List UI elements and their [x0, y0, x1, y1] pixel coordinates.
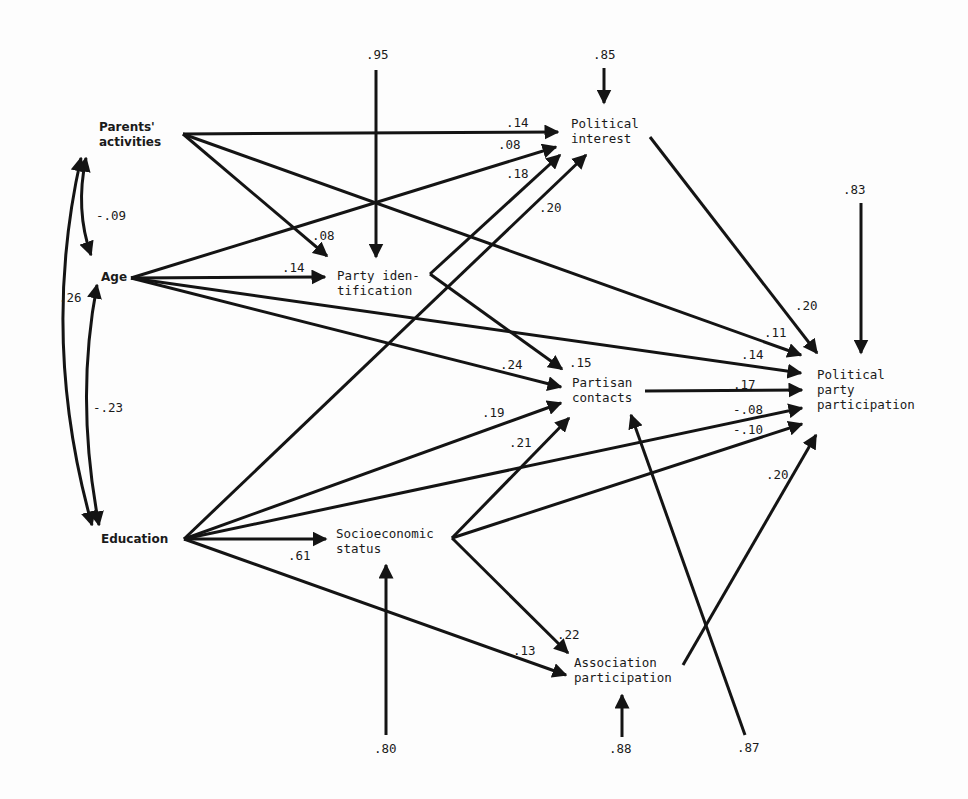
resid-party-identification: .95 [366, 47, 389, 62]
node-party-identification: Party iden-tification [337, 268, 420, 298]
coef-partyid-interest: .20 [539, 200, 562, 215]
coef-age-education: -.23 [93, 400, 123, 415]
resid-association-participation: .88 [609, 741, 632, 756]
label-line: Political [571, 116, 639, 131]
coef-education-ses: .61 [288, 548, 311, 563]
resid-political-interest: .85 [593, 47, 616, 62]
node-parents-activities: Parents'activities [99, 120, 161, 150]
path-education-association [184, 539, 566, 675]
coef-ses-contacts: .21 [509, 435, 532, 450]
coef-association-ppp: .20 [766, 467, 789, 482]
label-line: participation [574, 670, 672, 685]
coef-ses-ppp: -.10 [733, 422, 763, 437]
coef-parents-ppp: .11 [764, 325, 787, 340]
coef-age-interest: .08 [498, 137, 521, 152]
node-socioeconomic-status: Socioeconomicstatus [336, 526, 434, 556]
coef-partyid-contacts: .15 [569, 355, 592, 370]
label-line: status [336, 541, 381, 556]
coef-age-partyid: .14 [282, 260, 305, 275]
path-contacts-ppp [645, 390, 802, 391]
path-ses-ppp [452, 424, 802, 538]
coef-contacts-ppp: .17 [733, 377, 756, 392]
label-line: interest [571, 131, 631, 146]
corr-parents-age [82, 158, 91, 255]
coef-education-ppp: -.08 [733, 402, 763, 417]
node-education: Education [101, 532, 168, 547]
coef-parents-partyid: .08 [312, 228, 335, 243]
path-education-interest [184, 155, 586, 539]
label-line: Parents' [99, 120, 155, 134]
label-line: Age [101, 270, 127, 284]
resid-political-party-participation: .83 [843, 182, 866, 197]
coef-parents-interest: .14 [506, 115, 529, 130]
path-parents-interest [183, 132, 558, 134]
label-line: Association [574, 655, 657, 670]
label-line: activities [99, 135, 161, 149]
label-line: Partisan [572, 375, 632, 390]
resid-socioeconomic-status: .80 [374, 741, 397, 756]
node-association-participation: Associationparticipation [574, 655, 672, 685]
path-parents-partyid [183, 134, 327, 256]
resid-arrow-contacts [631, 415, 745, 735]
label-line: Political [817, 367, 885, 382]
label-line: Party iden- [337, 268, 420, 283]
node-partisan-contacts: Partisancontacts [572, 375, 632, 405]
node-political-party-participation: Politicalpartyparticipation [817, 367, 915, 412]
label-line: participation [817, 397, 915, 412]
coef-education-association: .13 [513, 643, 536, 658]
label-line: Education [101, 532, 168, 546]
coef-education-contacts: .19 [482, 405, 505, 420]
path-partyid-contacts [430, 274, 562, 369]
coef-age-contacts: .24 [500, 357, 523, 372]
label-line: party [817, 382, 855, 397]
coef-ses-association: .22 [557, 627, 580, 642]
label-line: Socioeconomic [336, 526, 434, 541]
path-ses-association [452, 538, 568, 653]
coef-parents-age: -.09 [96, 208, 126, 223]
coef-education-interest: .18 [506, 166, 529, 181]
path-age-partyid [131, 277, 325, 278]
path-interest-ppp [650, 137, 817, 353]
label-line: contacts [572, 390, 632, 405]
label-line: tification [337, 283, 412, 298]
path-association-ppp [683, 435, 816, 665]
coef-interest-ppp: .20 [795, 298, 818, 313]
resid-partisan-contacts: .87 [737, 740, 760, 755]
node-age: Age [101, 270, 127, 285]
coef-age-ppp: .14 [741, 347, 764, 362]
path-age-ppp [131, 278, 801, 373]
path-age-interest [131, 147, 556, 278]
node-political-interest: Politicalinterest [571, 116, 639, 146]
coef-parents-education: .26 [59, 290, 82, 305]
